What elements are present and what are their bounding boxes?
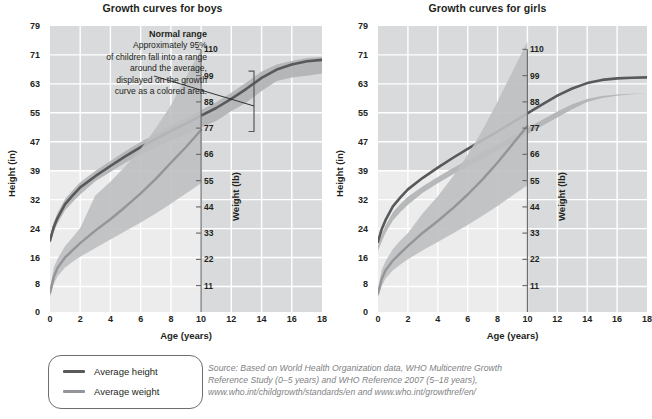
age-axis-title-girls: Age (years) xyxy=(378,330,647,341)
age-tick-16: 16 xyxy=(287,314,297,324)
annotation-line-5: curve as a colored area. xyxy=(115,86,207,96)
weight-axis-title-girls: Weight (lb) xyxy=(556,164,567,230)
legend-label-average-weight: Average weight xyxy=(94,386,159,397)
legend-label-average-height: Average height xyxy=(94,366,158,377)
age-tick-4: 4 xyxy=(108,314,113,324)
legend-swatch-weight-icon xyxy=(63,390,85,393)
plot-area-girls: 110 99 88 77 66 55 44 33 22 11 Weight (l… xyxy=(378,26,647,312)
height-tick-8: 8 xyxy=(363,279,368,289)
height-tick-55: 55 xyxy=(30,108,40,118)
legend: Average height Average weight xyxy=(48,355,203,409)
chart-panel-girls: Growth curves for girls 79 71 63 55 47 3… xyxy=(325,0,650,350)
age-tick-18: 18 xyxy=(642,314,652,324)
height-tick-79: 79 xyxy=(358,21,368,31)
age-tick-12: 12 xyxy=(226,314,236,324)
age-tick-0: 0 xyxy=(375,314,380,324)
age-tick-8: 8 xyxy=(168,314,173,324)
age-tick-12: 12 xyxy=(552,314,562,324)
weight-axis-title-boys: Weight (lb) xyxy=(230,164,241,230)
age-tick-4: 4 xyxy=(435,314,440,324)
age-axis-title-boys: Age (years) xyxy=(50,330,322,341)
height-tick-71: 71 xyxy=(358,50,368,60)
height-axis-title-boys: Height (in) xyxy=(6,139,17,209)
chart-panel-boys: Growth curves for boys 79 71 63 55 47 39… xyxy=(0,0,325,350)
age-tick-14: 14 xyxy=(257,314,267,324)
normal-range-annotation-boys: Normal range Approximately 95% of childr… xyxy=(52,29,207,97)
age-tick-6: 6 xyxy=(138,314,143,324)
height-tick-63: 63 xyxy=(358,79,368,89)
height-tick-24: 24 xyxy=(30,224,40,234)
height-tick-39: 39 xyxy=(358,166,368,176)
age-axis-girls: 0 2 4 6 8 10 12 14 16 18 xyxy=(378,314,647,328)
height-tick-79: 79 xyxy=(30,21,40,31)
height-tick-47: 47 xyxy=(358,137,368,147)
height-tick-32: 32 xyxy=(30,195,40,205)
annotation-title: Normal range xyxy=(52,29,207,40)
height-tick-0: 0 xyxy=(35,307,40,317)
height-tick-63: 63 xyxy=(30,79,40,89)
height-tick-24: 24 xyxy=(358,224,368,234)
plot-svg-girls xyxy=(378,26,647,312)
age-tick-0: 0 xyxy=(47,314,52,324)
height-tick-55: 55 xyxy=(358,108,368,118)
annotation-line-1: Approximately 95% xyxy=(133,40,207,50)
age-tick-10: 10 xyxy=(522,314,532,324)
annotation-line-4: displayed on the growth xyxy=(116,75,207,85)
height-tick-47: 47 xyxy=(30,137,40,147)
annotation-line-3: around the average, xyxy=(130,63,207,73)
age-tick-10: 10 xyxy=(196,314,206,324)
annotation-line-2: of children fall into a range xyxy=(106,52,207,62)
legend-item-average-height: Average height xyxy=(63,366,158,377)
legend-item-average-weight: Average weight xyxy=(63,386,159,397)
height-tick-16: 16 xyxy=(30,253,40,263)
source-note: Source: Based on World Health Organizati… xyxy=(208,362,628,399)
source-line-2: Reference Study (0–5 years) and WHO Refe… xyxy=(208,374,628,386)
age-tick-14: 14 xyxy=(582,314,592,324)
age-tick-2: 2 xyxy=(405,314,410,324)
age-tick-6: 6 xyxy=(465,314,470,324)
source-line-3: www.who.int/childgrowth/standards/en and… xyxy=(208,386,628,398)
height-axis-title-girls: Height (in) xyxy=(334,139,345,209)
source-line-1: Source: Based on World Health Organizati… xyxy=(208,362,628,374)
height-tick-39: 39 xyxy=(30,166,40,176)
legend-swatch-height-icon xyxy=(63,370,85,373)
height-tick-71: 71 xyxy=(30,50,40,60)
height-tick-0: 0 xyxy=(363,307,368,317)
height-tick-32: 32 xyxy=(358,195,368,205)
chart-title-boys: Growth curves for boys xyxy=(0,2,325,14)
age-axis-boys: 0 2 4 6 8 10 12 14 16 18 xyxy=(50,314,322,328)
age-tick-8: 8 xyxy=(495,314,500,324)
chart-title-girls: Growth curves for girls xyxy=(325,2,650,14)
height-tick-16: 16 xyxy=(358,253,368,263)
age-tick-16: 16 xyxy=(612,314,622,324)
height-tick-8: 8 xyxy=(35,279,40,289)
age-tick-2: 2 xyxy=(78,314,83,324)
